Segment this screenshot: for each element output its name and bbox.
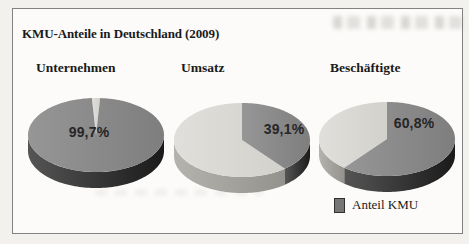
legend-swatch-icon [334, 198, 345, 213]
legend: Anteil KMU [334, 197, 418, 213]
pie-title-beschaeftigte: Beschäftigte [330, 60, 400, 76]
pie-chart-umsatz [167, 98, 317, 198]
bleed-through-smudge [333, 16, 465, 29]
figure-frame: KMU-Anteile in Deutschland (2009) Untern… [12, 8, 463, 234]
pie-value-label: 99,7% [59, 124, 119, 140]
pie-title-unternehmen: Unternehmen [36, 60, 116, 76]
pie-chart-beschaeftigte [312, 97, 462, 197]
pie-value-label: 60,8% [384, 115, 444, 131]
pie-chart-unternehmen [21, 93, 171, 193]
legend-label: Anteil KMU [352, 197, 418, 213]
pie-title-umsatz: Umsatz [181, 60, 225, 76]
figure-title: KMU-Anteile in Deutschland (2009) [22, 26, 219, 42]
pie-value-label: 39,1% [254, 121, 314, 137]
